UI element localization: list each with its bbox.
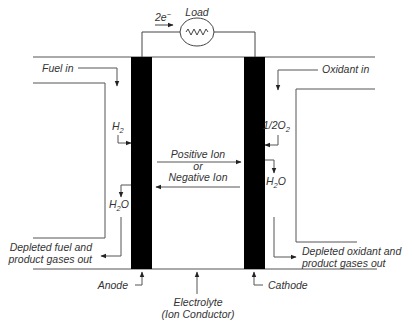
fuel-channel-inner-wall — [33, 83, 105, 238]
depleted-oxidant-label-line2: product gases out — [301, 257, 387, 269]
circuit-wire-left — [142, 32, 180, 57]
circuit-wire-right — [214, 32, 255, 57]
positive-ion-label: Positive Ion — [171, 148, 225, 160]
depleted-oxidant-arrow — [274, 217, 296, 257]
cathode-electrode — [244, 57, 265, 269]
cathode-reactant-arrow — [265, 135, 278, 145]
anode-reactant-label: H2 — [112, 120, 125, 135]
external-circuit: Load 2e− — [142, 6, 255, 57]
anode-label: Anode — [97, 279, 129, 291]
electrolyte-label-line1: Electrolyte — [173, 296, 222, 308]
electrolyte-label-line2: (Ion Conductor) — [162, 308, 235, 320]
depleted-fuel-label-line1: Depleted fuel and — [10, 241, 93, 253]
cathode-label: Cathode — [268, 279, 308, 291]
fuel-in-label: Fuel in — [42, 62, 74, 74]
oxidant-channel-inner-wall — [296, 89, 375, 242]
cathode-pointer-arrow — [254, 272, 263, 285]
anode-reactant-arrow — [118, 135, 131, 143]
anode-pointer-arrow — [135, 272, 142, 285]
fuel-cell-diagram: Load 2e− Fuel in H2 H2O Depleted fuel an… — [0, 0, 412, 330]
cathode-product-label: H2O — [266, 175, 286, 190]
negative-ion-label: Negative Ion — [169, 171, 228, 183]
oxidant-in-arrow — [278, 70, 318, 90]
anode-product-arrow — [121, 185, 131, 197]
depleted-fuel-label-line2: product gases out — [8, 253, 94, 265]
cathode-reactant-label: 1/2O2 — [263, 119, 291, 134]
anode-electrode — [131, 57, 152, 269]
oxidant-in-label: Oxidant in — [322, 63, 369, 75]
electron-flow-label: 2e− — [154, 10, 172, 23]
anode-product-label: H2O — [109, 198, 129, 213]
load-circle — [180, 18, 214, 46]
depleted-fuel-arrow — [101, 217, 121, 256]
load-label: Load — [185, 6, 210, 18]
cathode-product-arrow — [265, 160, 274, 173]
depleted-oxidant-label-line1: Depleted oxidant and — [302, 245, 402, 257]
resistor-icon — [186, 29, 208, 35]
